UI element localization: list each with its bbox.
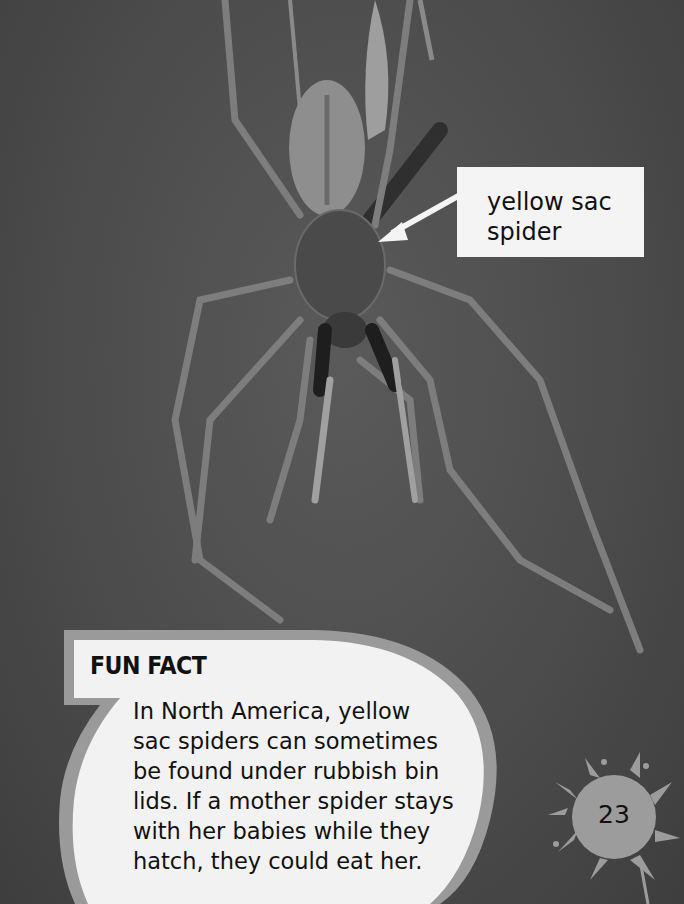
paint-splat-icon — [0, 0, 684, 904]
book-page: yellow sac spider FUN FACT In North Amer… — [0, 0, 684, 904]
page-number: 23 — [598, 800, 630, 829]
